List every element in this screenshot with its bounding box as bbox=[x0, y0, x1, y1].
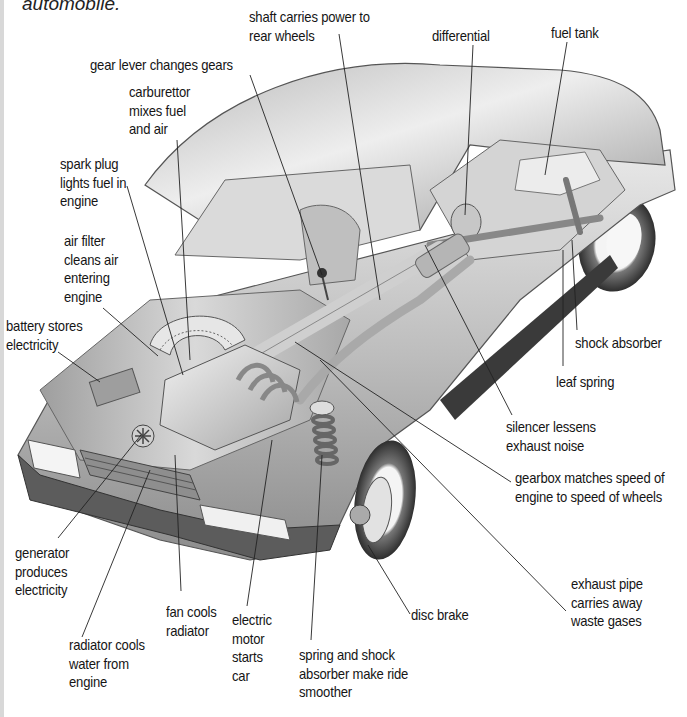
label-exhaust-pipe: exhaust pipecarries awaywaste gases bbox=[571, 575, 643, 631]
label-line: water from bbox=[69, 655, 145, 674]
label-line: smoother bbox=[299, 683, 408, 702]
label-spark-plug: spark pluglights fuel inengine bbox=[60, 155, 126, 211]
label-carburettor: carburettormixes fueland air bbox=[129, 83, 190, 139]
label-line: engine bbox=[60, 192, 126, 211]
label-line: lights fuel in bbox=[60, 174, 126, 193]
label-leaf-spring: leaf spring bbox=[556, 373, 614, 392]
label-line: absorber make ride bbox=[299, 665, 408, 684]
label-line: gear lever changes gears bbox=[90, 56, 233, 75]
seat-part bbox=[300, 205, 360, 285]
label-line: gearbox matches speed of bbox=[515, 469, 664, 488]
label-generator: generatorproduceselectricity bbox=[15, 544, 69, 600]
label-line: leaf spring bbox=[556, 373, 614, 392]
label-line: engine bbox=[64, 288, 118, 307]
label-line: rear wheels bbox=[249, 27, 370, 46]
label-battery: battery storeselectricity bbox=[6, 317, 83, 354]
label-line: spark plug bbox=[60, 155, 126, 174]
label-line: electricity bbox=[6, 336, 83, 355]
label-line: air filter bbox=[64, 232, 118, 251]
label-line: and air bbox=[129, 120, 190, 139]
label-shaft: shaft carries power torear wheels bbox=[249, 8, 370, 45]
label-line: radiator bbox=[166, 622, 217, 641]
label-line: exhaust noise bbox=[506, 437, 596, 456]
label-line: motor bbox=[232, 630, 272, 649]
label-line: generator bbox=[15, 544, 69, 563]
label-line: silencer lessens bbox=[506, 418, 596, 437]
label-line: entering bbox=[64, 269, 118, 288]
label-gearbox: gearbox matches speed ofengine to speed … bbox=[515, 469, 664, 506]
label-line: differential bbox=[432, 27, 490, 46]
fan-part bbox=[135, 428, 151, 444]
label-line: shaft carries power to bbox=[249, 8, 370, 27]
label-fuel-tank: fuel tank bbox=[551, 24, 599, 43]
label-line: electric bbox=[232, 611, 272, 630]
label-disc-brake: disc brake bbox=[411, 606, 469, 625]
label-line: mixes fuel bbox=[129, 102, 190, 121]
label-line: shock absorber bbox=[575, 334, 662, 353]
label-fan: fan coolsradiator bbox=[166, 603, 217, 640]
label-line: electricity bbox=[15, 581, 69, 600]
label-gear-lever: gear lever changes gears bbox=[90, 56, 233, 75]
label-line: carries away bbox=[571, 594, 643, 613]
label-line: starts bbox=[232, 648, 272, 667]
label-line: exhaust pipe bbox=[571, 575, 643, 594]
label-line: carburettor bbox=[129, 83, 190, 102]
label-line: car bbox=[232, 667, 272, 686]
label-line: battery stores bbox=[6, 317, 83, 336]
label-line: engine bbox=[69, 673, 145, 692]
label-shock-absorber: shock absorber bbox=[575, 334, 662, 353]
label-line: fuel tank bbox=[551, 24, 599, 43]
label-line: disc brake bbox=[411, 606, 469, 625]
disc-brake-part bbox=[350, 505, 370, 525]
label-line: fan cools bbox=[166, 603, 217, 622]
label-air-filter: air filtercleans airenteringengine bbox=[64, 232, 118, 306]
label-line: waste gases bbox=[571, 612, 643, 631]
label-line: radiator cools bbox=[69, 636, 145, 655]
label-differential: differential bbox=[432, 27, 490, 46]
label-silencer: silencer lessensexhaust noise bbox=[506, 418, 596, 455]
label-line: produces bbox=[15, 563, 69, 582]
label-line: engine to speed of wheels bbox=[515, 488, 664, 507]
label-radiator: radiator coolswater fromengine bbox=[69, 636, 145, 692]
label-spring-shock: spring and shockabsorber make ridesmooth… bbox=[299, 646, 408, 702]
label-line: spring and shock bbox=[299, 646, 408, 665]
label-electric-motor: electricmotorstartscar bbox=[232, 611, 272, 685]
label-line: cleans air bbox=[64, 251, 118, 270]
